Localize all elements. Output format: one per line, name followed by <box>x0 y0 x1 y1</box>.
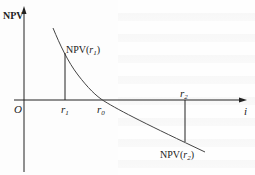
diagram-canvas <box>0 0 255 175</box>
x-axis-label: i <box>244 106 247 117</box>
r2-label: r2 <box>180 88 188 101</box>
x-axis-arrow-icon <box>239 98 247 103</box>
npv-r2-annotation: NPV(r2) <box>160 150 194 162</box>
r0-label: r0 <box>97 104 105 117</box>
y-axis-label: NPV <box>3 11 24 21</box>
npv-diagram: NPV i O r1 r0 r2 NPV(r1) NPV(r2) <box>0 0 255 175</box>
r1-label: r1 <box>61 104 69 117</box>
origin-label: O <box>14 104 22 115</box>
npv-r1-annotation: NPV(r1) <box>66 45 100 57</box>
